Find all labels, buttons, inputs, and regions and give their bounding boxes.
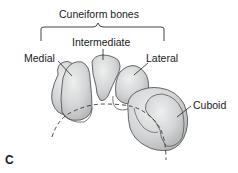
bone-illustration — [0, 0, 238, 173]
lateral-label: Lateral — [146, 53, 178, 64]
medial-cuneiform — [52, 62, 92, 123]
medial-label: Medial — [24, 53, 55, 64]
intermediate-label: Intermediate — [72, 37, 130, 48]
cuneiform-bones-label: Cuneiform bones — [59, 9, 139, 20]
panel-label: C — [5, 154, 14, 166]
cuneiform-cuboid-diagram: Cuneiform bones Intermediate Medial Late… — [0, 0, 238, 173]
cuboid-label: Cuboid — [193, 100, 226, 111]
cuboid — [128, 88, 188, 151]
